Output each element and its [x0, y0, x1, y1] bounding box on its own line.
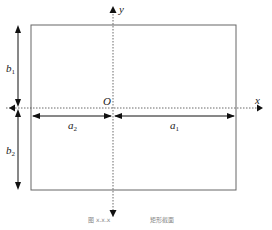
- b1-top-arrow-icon: [15, 25, 21, 33]
- b2-bottom-arrow-icon: [15, 182, 21, 190]
- a1-label: a1: [170, 119, 180, 133]
- a2-label: a2: [68, 119, 78, 133]
- x-axis-label: x: [254, 94, 260, 106]
- b1-label: b1: [6, 62, 16, 76]
- y-axis-label: y: [118, 3, 124, 15]
- a1-left-arrow-icon: [114, 113, 122, 119]
- a2-left-arrow-icon: [32, 113, 40, 119]
- x-axis-left-arrow-icon: [9, 105, 15, 112]
- a2-right-arrow-icon: [104, 113, 112, 119]
- a1-right-arrow-icon: [227, 113, 235, 119]
- b1-bottom-arrow-icon: [15, 99, 21, 107]
- rectangle-outline: [31, 25, 236, 190]
- y-axis-arrow-icon: [110, 6, 117, 13]
- y-axis-down-arrow-icon: [110, 210, 117, 217]
- rectangle-coordinate-diagram: y x O b1 b2 a2 a1: [0, 0, 272, 230]
- b2-top-arrow-icon: [15, 109, 21, 117]
- caption-number: 图 x.x.x: [88, 215, 110, 224]
- caption-title: 矩形截面: [150, 215, 174, 224]
- origin-label: O: [103, 95, 111, 107]
- b2-label: b2: [6, 144, 16, 158]
